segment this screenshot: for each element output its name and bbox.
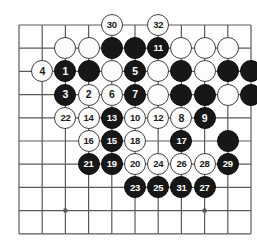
stone [170,60,192,82]
numbered-stone: 22 [54,107,76,129]
stone-move-number: 25 [153,182,163,192]
numbered-stone: 28 [194,153,216,175]
numbered-stone: 4 [31,60,53,82]
stone-move-number: 4 [39,66,45,77]
numbered-stone: 32 [147,14,169,36]
numbered-stone: 3 [54,84,76,106]
stone-move-number: 28 [200,159,210,169]
stone [54,37,76,59]
stone-move-number: 20 [130,159,140,169]
numbered-stone: 30 [101,14,123,36]
stone-move-number: 32 [153,20,163,30]
stone-move-number: 9 [202,112,208,123]
stone-move-number: 2 [86,89,92,100]
stone [217,84,239,106]
numbered-stone: 27 [194,176,216,198]
numbered-stone: 2 [78,84,100,106]
stone-move-number: 23 [130,182,140,192]
numbered-stone: 16 [78,130,100,152]
stone [194,84,216,106]
numbered-stone: 25 [147,176,169,198]
stone-move-number: 5 [132,66,138,77]
stone-move-number: 15 [107,136,117,146]
stone-move-number: 24 [153,159,163,169]
stone-move-number: 30 [107,20,117,30]
numbered-stone: 11 [147,37,169,59]
stone-move-number: 29 [223,159,233,169]
stone [147,84,169,106]
stone [240,84,257,106]
stone-move-number: 10 [130,113,140,123]
stone [194,37,216,59]
stone-move-number: 3 [63,89,69,100]
numbered-stone: 7 [124,84,146,106]
stone-move-number: 22 [60,113,70,123]
stone-move-number: 11 [153,43,162,53]
numbered-stone: 20 [124,153,146,175]
stone [170,37,192,59]
stones-layer: 3032114153267221413101289161518172119202… [0,0,257,246]
stone [170,84,192,106]
numbered-stone: 10 [124,107,146,129]
stone [78,60,100,82]
numbered-stone: 17 [170,130,192,152]
numbered-stone: 31 [170,176,192,198]
stone-move-number: 8 [179,112,185,123]
stone [124,37,146,59]
stone-move-number: 31 [176,182,186,192]
numbered-stone: 8 [170,107,192,129]
stone-move-number: 12 [153,113,163,123]
stone [217,60,239,82]
stone [101,37,123,59]
numbered-stone: 9 [194,107,216,129]
stone [101,60,123,82]
stone-move-number: 26 [176,159,186,169]
stone [217,37,239,59]
stone-move-number: 14 [84,113,94,123]
stone-move-number: 7 [132,89,138,100]
numbered-stone: 5 [124,60,146,82]
numbered-stone: 13 [101,107,123,129]
stone-move-number: 18 [130,136,140,146]
stone [78,37,100,59]
numbered-stone: 26 [170,153,192,175]
numbered-stone: 1 [54,60,76,82]
numbered-stone: 15 [101,130,123,152]
numbered-stone: 6 [101,84,123,106]
numbered-stone: 21 [78,153,100,175]
stone-move-number: 27 [200,182,210,192]
stone-move-number: 16 [84,136,94,146]
numbered-stone: 23 [124,176,146,198]
stone [217,130,239,152]
numbered-stone: 29 [217,153,239,175]
stone-move-number: 6 [109,89,115,100]
stone-move-number: 21 [84,159,94,169]
stone [147,60,169,82]
stone-move-number: 13 [107,113,117,123]
numbered-stone: 14 [78,107,100,129]
stone [240,60,257,82]
stone-move-number: 17 [176,136,186,146]
numbered-stone: 18 [124,130,146,152]
numbered-stone: 19 [101,153,123,175]
stone [194,60,216,82]
go-board-diagram: 3032114153267221413101289161518172119202… [0,0,257,246]
numbered-stone: 12 [147,107,169,129]
numbered-stone: 24 [147,153,169,175]
stone-move-number: 19 [107,159,117,169]
stone-move-number: 1 [63,66,69,77]
